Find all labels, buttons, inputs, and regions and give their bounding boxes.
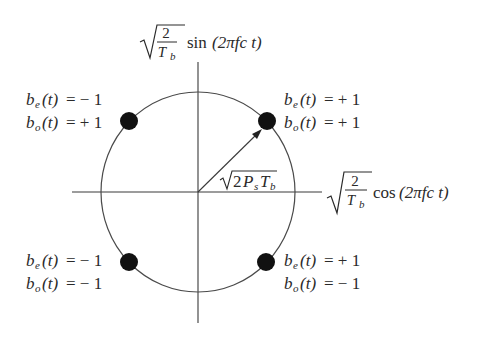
bo-letter: b — [26, 113, 35, 132]
constellation-point-lower-left — [120, 253, 138, 271]
bo-value: = + 1 — [66, 113, 102, 132]
svg-text:b: b — [284, 274, 293, 293]
y-arg: (2πfc t) — [212, 33, 262, 52]
x-func: cos — [373, 183, 396, 202]
svg-text:(t): (t) — [300, 90, 316, 109]
svg-text:e: e — [35, 98, 40, 110]
svg-text:(t): (t) — [42, 251, 58, 270]
y-func: sin — [187, 33, 207, 52]
radius-label-sub2: b — [270, 180, 276, 192]
svg-text:(t): (t) — [42, 274, 58, 293]
svg-text:e: e — [35, 259, 40, 271]
svg-text:b: b — [284, 90, 293, 109]
radius-label: 2 P s T b — [220, 171, 277, 192]
svg-text:(t): (t) — [42, 90, 58, 109]
bo-value: = − 1 — [324, 274, 360, 293]
constellation-point-lower-right — [257, 253, 275, 271]
svg-text:o: o — [35, 282, 41, 294]
svg-text:e: e — [293, 259, 298, 271]
svg-text:b: b — [26, 251, 35, 270]
y-coef-denom-sub: b — [170, 50, 176, 62]
constellation-point-upper-right — [258, 112, 276, 130]
svg-text:o: o — [293, 282, 299, 294]
svg-text:(t): (t) — [300, 251, 316, 270]
be-value: = + 1 — [324, 90, 360, 109]
constellation-diagram: 2 T b sin (2πfc t) 2 T b cos (2πfc t) 2 … — [0, 0, 479, 338]
y-coef-denom: T — [158, 44, 168, 60]
x-coef-numer: 2 — [351, 173, 359, 189]
label-lower-right: b e (t) = + 1 b o (t) = − 1 — [284, 251, 360, 294]
y-axis-label: 2 T b sin (2πfc t) — [140, 25, 262, 62]
radius-label-P: P — [242, 172, 253, 191]
radius-label-2: 2 — [233, 172, 242, 191]
bo-value: = + 1 — [324, 113, 360, 132]
label-lower-left: b e (t) = − 1 b o (t) = − 1 — [26, 251, 102, 294]
svg-text:b: b — [26, 274, 35, 293]
be-value: = − 1 — [66, 251, 102, 270]
svg-text:o: o — [293, 121, 299, 133]
y-coef-numer: 2 — [162, 25, 170, 41]
label-upper-left: b e (t) = − 1 b o (t) = + 1 — [26, 90, 102, 133]
svg-text:e: e — [293, 98, 298, 110]
label-upper-right: b e (t) = + 1 b o (t) = + 1 — [284, 90, 360, 133]
svg-text:b: b — [284, 113, 293, 132]
svg-text:(t): (t) — [42, 113, 58, 132]
be-value: = − 1 — [66, 90, 102, 109]
svg-text:(t): (t) — [300, 113, 316, 132]
x-coef-denom-sub: b — [359, 198, 365, 210]
svg-text:(t): (t) — [300, 274, 316, 293]
x-arg: (2πfc t) — [399, 183, 449, 202]
constellation-point-upper-left — [120, 112, 138, 130]
be-value: = + 1 — [324, 251, 360, 270]
be-letter: b — [26, 90, 35, 109]
svg-text:o: o — [35, 121, 41, 133]
x-coef-denom: T — [347, 192, 357, 208]
bo-value: = − 1 — [66, 274, 102, 293]
x-axis-label: 2 T b cos (2πfc t) — [327, 172, 449, 213]
radius-label-sub1: s — [254, 180, 258, 192]
svg-text:b: b — [284, 251, 293, 270]
